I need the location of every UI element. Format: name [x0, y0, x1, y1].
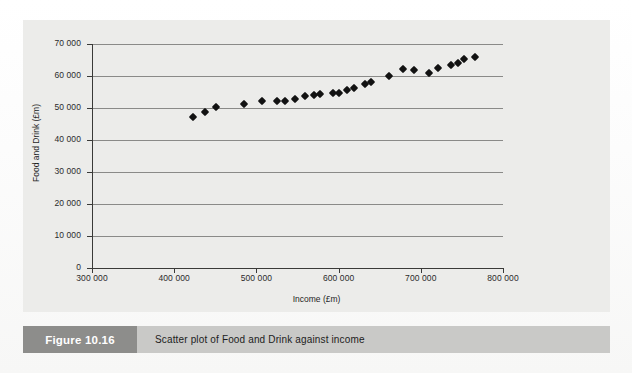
- y-axis-label: 30 000: [21, 167, 81, 176]
- figure-caption-bar: Figure 10.16 Scatter plot of Food and Dr…: [23, 326, 610, 353]
- figure-caption-text: Scatter plot of Food and Drink against i…: [137, 326, 610, 353]
- x-axis-label: 700 000: [386, 274, 456, 283]
- data-point: [410, 65, 418, 73]
- data-point: [434, 64, 442, 72]
- x-axis-label: 400 000: [139, 274, 209, 283]
- data-point: [301, 92, 309, 100]
- scatter-plot: Food and Drink (£m) Income (£m) 010 0002…: [23, 20, 610, 312]
- y-axis-tick: [87, 108, 93, 109]
- gridline-y: [92, 172, 503, 173]
- figure-number: Figure 10.16: [23, 326, 137, 353]
- y-axis-label: 40 000: [21, 135, 81, 144]
- data-point: [349, 84, 357, 92]
- x-axis-label: 300 000: [57, 274, 127, 283]
- data-point: [201, 108, 209, 116]
- y-axis-tick: [87, 204, 93, 205]
- data-point: [316, 90, 324, 98]
- x-axis-line: [92, 268, 504, 269]
- y-axis-label: 10 000: [21, 231, 81, 240]
- data-point: [471, 53, 479, 61]
- y-axis-tick: [87, 236, 93, 237]
- x-axis-title: Income (£m): [23, 294, 610, 304]
- data-point: [291, 95, 299, 103]
- y-axis-label: 50 000: [21, 103, 81, 112]
- gridline-y: [92, 44, 503, 45]
- figure-panel: Food and Drink (£m) Income (£m) 010 0002…: [23, 20, 610, 312]
- data-point: [384, 72, 392, 80]
- x-axis-label: 500 000: [221, 274, 291, 283]
- data-point: [281, 97, 289, 105]
- x-axis-label: 800 000: [468, 274, 538, 283]
- y-axis-label: 70 000: [21, 39, 81, 48]
- data-point: [212, 103, 220, 111]
- gridline-y: [92, 108, 503, 109]
- y-axis-label: 20 000: [21, 199, 81, 208]
- x-axis-label: 600 000: [304, 274, 374, 283]
- gridline-y: [92, 140, 503, 141]
- gridline-y: [92, 76, 503, 77]
- y-axis-tick: [87, 76, 93, 77]
- y-axis-label: 0: [21, 263, 81, 272]
- y-axis-tick: [87, 140, 93, 141]
- y-axis-label: 60 000: [21, 71, 81, 80]
- gridline-y: [92, 204, 503, 205]
- y-axis-tick: [87, 172, 93, 173]
- y-axis-tick: [87, 44, 93, 45]
- data-point: [189, 113, 197, 121]
- scanned-page: the underlying page text shows faintly t…: [0, 0, 632, 373]
- data-point: [398, 65, 406, 73]
- gridline-y: [92, 236, 503, 237]
- data-point: [258, 97, 266, 105]
